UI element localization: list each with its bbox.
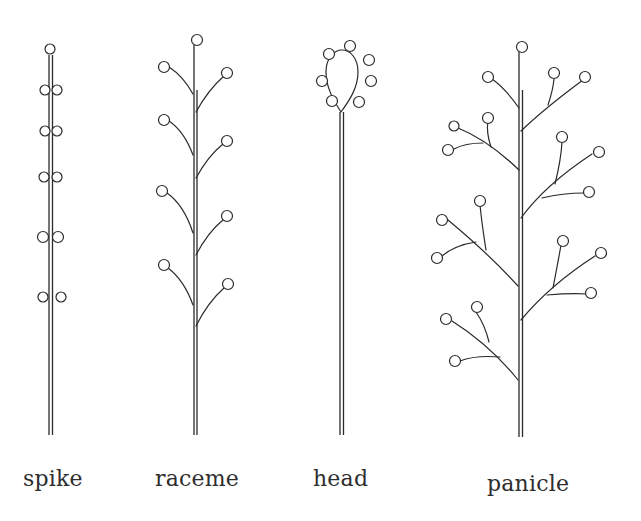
head-illustration <box>317 41 377 436</box>
spike-illustration <box>38 44 67 435</box>
label-panicle: panicle <box>487 471 569 496</box>
raceme-illustration <box>157 35 234 436</box>
panicle-illustration <box>432 42 607 438</box>
label-raceme: raceme <box>155 466 239 491</box>
label-head: head <box>313 466 368 491</box>
label-spike: spike <box>23 466 83 491</box>
inflorescence-diagram <box>0 0 641 521</box>
